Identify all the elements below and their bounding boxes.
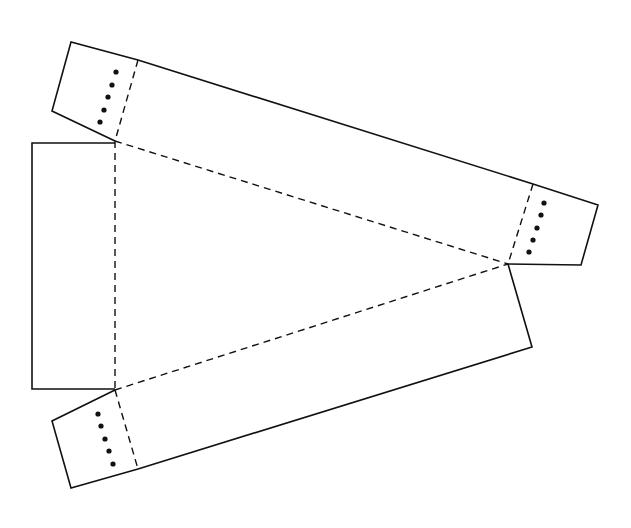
- glue-dot-top: [109, 82, 114, 87]
- right-flap-outline: [508, 184, 598, 265]
- glue-dot-right: [530, 237, 535, 242]
- glue-dot-top: [113, 69, 118, 74]
- left-panel-outline: [32, 143, 115, 389]
- glue-dot-bottom: [102, 436, 107, 441]
- glue-dot-top: [101, 107, 106, 112]
- fold-lines: [115, 60, 533, 469]
- triangle-bottom-fold: [115, 264, 508, 390]
- glue-dot-bottom: [106, 448, 111, 453]
- lower-panel-edge: [138, 264, 532, 469]
- glue-dot-right: [541, 200, 546, 205]
- bottom-flap-fold: [115, 390, 138, 469]
- glue-dot-bottom: [98, 423, 103, 428]
- glue-dot-top: [105, 94, 110, 99]
- glue-dot-right: [538, 212, 543, 217]
- glue-dot-top: [97, 119, 102, 124]
- bottom-flap-outline: [52, 390, 138, 488]
- glue-dot-right: [534, 225, 539, 230]
- glue-dot-bottom: [110, 461, 115, 466]
- glue-dots: [95, 69, 546, 466]
- paper-net-diagram: [0, 0, 631, 528]
- glue-dot-bottom: [95, 411, 100, 416]
- glue-dot-right: [526, 249, 531, 254]
- top-panel-edge: [138, 60, 533, 184]
- triangle-top-fold: [115, 141, 508, 264]
- cut-lines: [32, 42, 598, 488]
- top-flap-outline: [52, 42, 138, 141]
